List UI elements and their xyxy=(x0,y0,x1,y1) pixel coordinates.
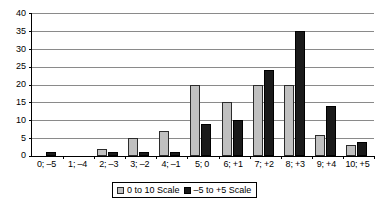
x-tick-label: 1; –4 xyxy=(62,159,93,170)
plot-area xyxy=(31,13,374,157)
bar xyxy=(253,85,263,157)
bar xyxy=(295,31,305,156)
y-tick-label: 10 xyxy=(16,116,26,125)
y-tick-label: 35 xyxy=(16,27,26,36)
bar xyxy=(346,145,356,156)
bar-group xyxy=(343,13,374,156)
x-tick-label: 7; +2 xyxy=(249,159,280,170)
legend-entry-1: –5 to +5 Scale xyxy=(184,185,252,195)
bar-group xyxy=(63,13,94,156)
bar xyxy=(357,142,367,156)
x-tick-label: 5; 0 xyxy=(186,159,217,170)
bar xyxy=(233,120,243,156)
legend-label: 0 to 10 Scale xyxy=(127,185,180,195)
bar xyxy=(139,152,149,156)
bar xyxy=(190,85,200,157)
y-tick-label: 20 xyxy=(16,80,26,89)
y-tick-label: 15 xyxy=(16,98,26,107)
x-tick-label: 10; +5 xyxy=(342,159,373,170)
x-tick-label: 9; +4 xyxy=(311,159,342,170)
bar xyxy=(128,138,138,156)
y-tick-mark xyxy=(29,156,32,157)
bar-group xyxy=(125,13,156,156)
bar-group xyxy=(312,13,343,156)
y-tick-label: 25 xyxy=(16,62,26,71)
x-tick-mark xyxy=(374,156,375,159)
bar-group xyxy=(219,13,250,156)
x-tick-label: 8; +3 xyxy=(280,159,311,170)
bar-group xyxy=(32,13,63,156)
bar xyxy=(46,152,56,156)
x-tick-label: 3; –2 xyxy=(124,159,155,170)
bar xyxy=(159,131,169,156)
bar xyxy=(170,152,180,156)
legend-entry-0: 0 to 10 Scale xyxy=(117,185,180,195)
bar xyxy=(264,70,274,156)
y-tick-label: 40 xyxy=(16,9,26,18)
chart-legend: 0 to 10 Scale –5 to +5 Scale xyxy=(112,182,257,198)
bar-group xyxy=(187,13,218,156)
x-axis-labels: 0; –51; –42; –33; –24; –15; 06; +17; +28… xyxy=(31,159,373,173)
bar xyxy=(284,85,294,157)
bar xyxy=(326,106,336,156)
y-tick-label: 0 xyxy=(21,151,26,160)
x-tick-label: 6; +1 xyxy=(218,159,249,170)
x-tick-label: 2; –3 xyxy=(93,159,124,170)
bar-group xyxy=(250,13,281,156)
legend-label: –5 to +5 Scale xyxy=(194,185,252,195)
bar xyxy=(315,135,325,156)
bar-groups xyxy=(32,13,374,156)
bar xyxy=(222,102,232,156)
legend-swatch-icon xyxy=(184,187,191,194)
legend-swatch-icon xyxy=(117,187,124,194)
y-tick-label: 30 xyxy=(16,45,26,54)
y-tick-label: 5 xyxy=(21,134,26,143)
bar-group xyxy=(156,13,187,156)
bar xyxy=(108,152,118,156)
y-axis-labels: 40 35 30 25 20 15 10 5 0 xyxy=(0,0,31,156)
bar-group xyxy=(94,13,125,156)
bar-chart: 40 35 30 25 20 15 10 5 0 0; –51; –42; –3… xyxy=(0,0,390,212)
bar xyxy=(97,149,107,156)
x-tick-label: 4; –1 xyxy=(155,159,186,170)
bar xyxy=(201,124,211,156)
bar-group xyxy=(281,13,312,156)
x-tick-label: 0; –5 xyxy=(31,159,62,170)
